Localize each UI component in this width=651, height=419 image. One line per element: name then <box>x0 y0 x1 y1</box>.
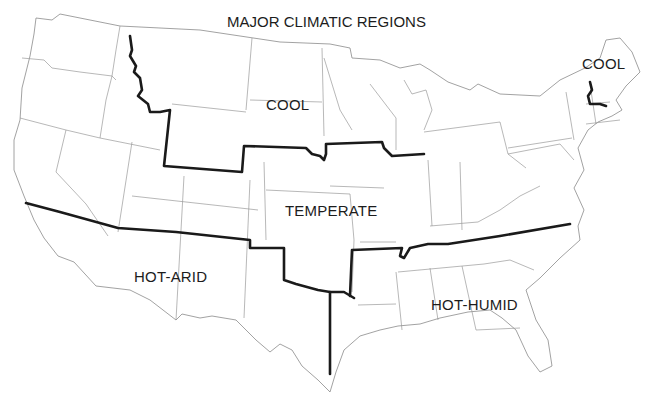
region-label-cool-north: COOL <box>266 96 309 113</box>
climatic-regions-map: MAJOR CLIMATIC REGIONS <box>0 0 651 419</box>
region-label-cool-northeast: COOL <box>582 55 625 72</box>
region-label-hot-arid: HOT-ARID <box>134 268 207 285</box>
region-label-hot-humid: HOT-HUMID <box>431 296 518 313</box>
region-label-temperate: TEMPERATE <box>285 202 377 219</box>
